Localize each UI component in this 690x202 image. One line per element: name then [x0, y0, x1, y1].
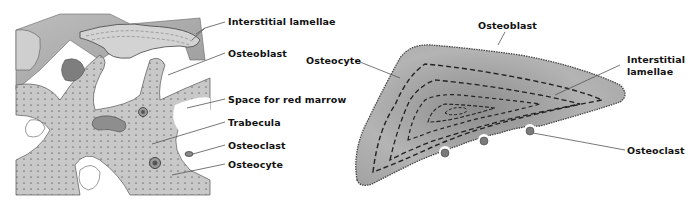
label-osteocyte-right: Osteocyte [306, 55, 361, 66]
label-space-for-red-marrow: Space for red marrow [228, 94, 346, 105]
label-osteoclast-left: Osteoclast [228, 140, 286, 151]
label-interstitial-lamellae-right-line1: Interstitial [627, 54, 685, 65]
label-interstitial-lamellae-right-line2: lamellae [627, 66, 673, 77]
label-osteoblast-left: Osteoblast [228, 48, 287, 59]
label-osteoclast-right: Osteoclast [627, 145, 685, 156]
trabecula-cross-section [356, 45, 625, 185]
spongy-bone-illustration [16, 12, 211, 195]
label-osteoblast-right: Osteoblast [478, 20, 537, 31]
label-interstitial-lamellae-left: Interstitial lamellae [228, 16, 336, 27]
label-trabecula: Trabecula [228, 117, 281, 128]
label-osteocyte-left: Osteocyte [228, 159, 283, 170]
